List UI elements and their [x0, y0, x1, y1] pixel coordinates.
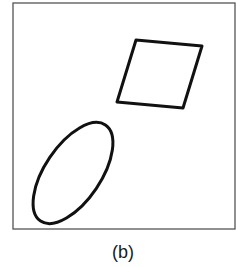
- diagram-figure: [0, 0, 236, 267]
- figure-frame: [13, 3, 235, 229]
- quadrilateral-shape: [117, 40, 202, 108]
- figure-caption: (b): [0, 242, 236, 263]
- ellipse-shape: [17, 109, 128, 236]
